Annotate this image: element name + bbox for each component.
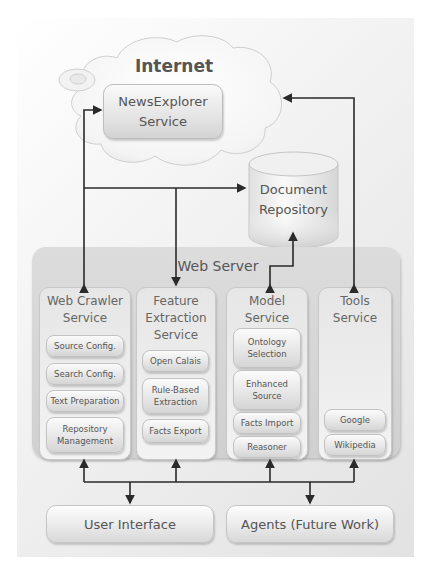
search-config-label: Search Config. <box>54 368 116 380</box>
wikipedia: Wikipedia <box>324 434 386 456</box>
text-preparation: Text Preparation <box>46 390 124 412</box>
web-server-title: Web Server <box>0 258 436 274</box>
model-title-2: Service <box>227 310 307 327</box>
facts-export: Facts Export <box>142 419 209 443</box>
facts-export-label: Facts Export <box>149 425 201 437</box>
web-crawler-service: Web Crawler Service Source Config. Searc… <box>39 287 131 460</box>
enhanced-line-2: Source <box>246 390 288 402</box>
tools-title-1: Tools <box>319 293 391 310</box>
repository-line-1: Document <box>247 180 340 200</box>
newsexplorer-line-1: NewsExplorer <box>118 92 207 112</box>
google: Google <box>324 409 386 431</box>
open-calais-label: Open Calais <box>150 355 201 367</box>
facts-import-label: Facts Import <box>241 417 294 429</box>
web-crawler-title-2: Service <box>40 310 130 327</box>
feature-title-2: Extraction <box>137 310 215 327</box>
reasoner: Reasoner <box>233 436 301 458</box>
feature-title-3: Service <box>137 327 215 344</box>
document-repository: Document Repository <box>247 150 340 252</box>
user-interface-label: User Interface <box>84 517 176 532</box>
web-crawler-title-1: Web Crawler <box>40 293 130 310</box>
enhanced-source: Enhanced Source <box>233 370 301 410</box>
reasoner-label: Reasoner <box>247 441 287 453</box>
ontology-line-2: Selection <box>247 348 286 360</box>
newsexplorer-service: NewsExplorer Service <box>103 84 223 139</box>
open-calais: Open Calais <box>142 350 209 372</box>
facts-import: Facts Import <box>233 412 301 434</box>
rule-based-extraction: Rule-Based Extraction <box>142 378 209 414</box>
source-config-label: Source Config. <box>54 340 116 352</box>
newsexplorer-line-2: Service <box>118 112 207 132</box>
source-config: Source Config. <box>46 335 124 357</box>
rule-based-line-1: Rule-Based <box>152 384 199 396</box>
feature-title-1: Feature <box>137 293 215 310</box>
ontology-line-1: Ontology <box>247 336 286 348</box>
internet-title: Internet <box>124 56 224 76</box>
ontology-selection: Ontology Selection <box>233 328 301 368</box>
repository-management: Repository Management <box>46 417 124 453</box>
text-preparation-label: Text Preparation <box>51 395 120 407</box>
model-title-1: Model <box>227 293 307 310</box>
repository-line-2: Repository <box>247 200 340 220</box>
feature-extraction-service: Feature Extraction Service Open Calais R… <box>136 287 216 460</box>
model-service: Model Service Ontology Selection Enhance… <box>226 287 308 460</box>
wikipedia-label: Wikipedia <box>334 439 375 451</box>
repository-management-line-2: Management <box>57 435 113 447</box>
tools-title-2: Service <box>319 310 391 327</box>
repository-management-line-1: Repository <box>57 423 113 435</box>
search-config: Search Config. <box>46 363 124 385</box>
tools-service: Tools Service Google Wikipedia <box>318 287 392 460</box>
google-label: Google <box>340 414 370 426</box>
rule-based-line-2: Extraction <box>152 396 199 408</box>
agents-label: Agents (Future Work) <box>241 517 379 532</box>
agents-box: Agents (Future Work) <box>226 505 394 543</box>
enhanced-line-1: Enhanced <box>246 378 288 390</box>
user-interface-box: User Interface <box>46 505 214 543</box>
